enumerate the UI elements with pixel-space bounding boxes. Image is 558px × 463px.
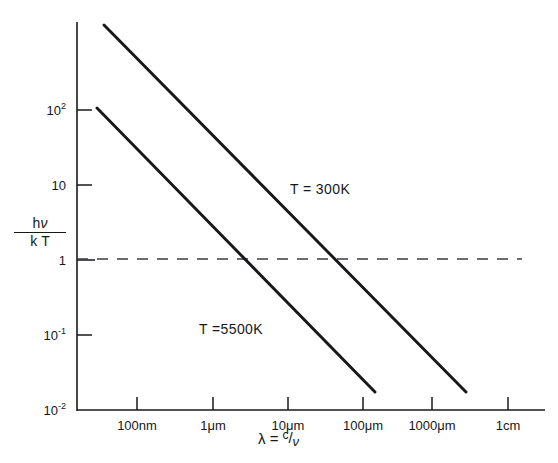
plot-canvas bbox=[0, 0, 558, 463]
series-line-300k bbox=[104, 25, 466, 392]
y-tick-label-0-01: 10-2 bbox=[16, 403, 66, 418]
series-annotation-300k: T = 300K bbox=[290, 181, 350, 197]
x-tick-label-100um: 100μm bbox=[343, 418, 383, 433]
y-axis-title-numerator: hν bbox=[14, 216, 66, 233]
y-axis-title: hν k T bbox=[14, 216, 66, 248]
x-tick-label-1000um: 1000μm bbox=[408, 418, 455, 433]
y-tick-label-10: 10 bbox=[16, 178, 66, 193]
y-tick-label-100: 102 bbox=[16, 103, 66, 118]
figure-container: 102 10 1 10-1 10-2 hν k T 100nm 1μm 10μm… bbox=[0, 0, 558, 463]
x-axis-title: λ = c/ν bbox=[258, 430, 299, 447]
x-axis-ticks bbox=[137, 397, 508, 410]
x-axis-title-fraction: c/ν bbox=[282, 429, 299, 446]
x-tick-label-1um: 1μm bbox=[200, 418, 226, 433]
y-tick-label-0-1: 10-1 bbox=[16, 328, 66, 343]
y-axis-ticks bbox=[77, 110, 95, 335]
y-axis-title-denominator: k T bbox=[14, 233, 66, 249]
y-tick-label-1: 1 bbox=[16, 253, 66, 268]
series-line-5500k bbox=[97, 108, 375, 392]
x-tick-label-100nm: 100nm bbox=[117, 418, 157, 433]
series-annotation-5500k: T =5500K bbox=[199, 321, 263, 337]
x-tick-label-1cm: 1cm bbox=[496, 418, 521, 433]
x-axis-title-lead: λ = bbox=[258, 430, 278, 447]
